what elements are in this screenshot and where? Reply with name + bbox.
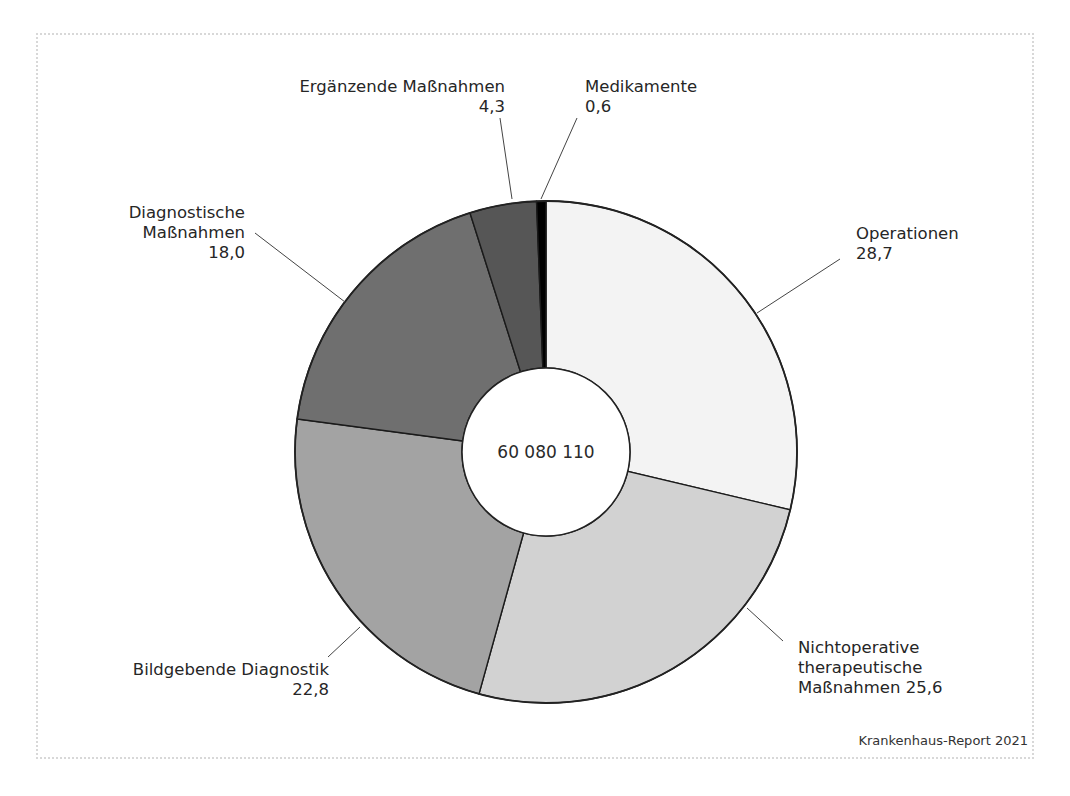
- label-diagnostische: Diagnostische Maßnahmen 18,0: [129, 203, 245, 263]
- label-operationen: Operationen 28,7: [856, 224, 959, 264]
- label-medikamente-value: 0,6: [585, 97, 697, 117]
- leader-line-diagnostische: [255, 233, 345, 302]
- label-nichtoperative-line2: therapeutische: [798, 658, 942, 678]
- label-ergaenzende-name: Ergänzende Maßnahmen: [299, 77, 505, 97]
- label-nichtoperative-line3: Maßnahmen 25,6: [798, 678, 942, 698]
- leader-line-medikamente: [541, 118, 577, 199]
- label-ergaenzende-value: 4,3: [299, 97, 505, 117]
- label-nichtoperative: Nichtoperative therapeutische Maßnahmen …: [798, 638, 942, 698]
- label-ergaenzende: Ergänzende Maßnahmen 4,3: [299, 77, 505, 117]
- label-diagnostische-line2: Maßnahmen: [129, 223, 245, 243]
- donut-center-total: 60 080 110: [466, 442, 626, 462]
- leader-line-nichtoperative: [747, 608, 783, 641]
- leader-line-bildgebende: [328, 627, 360, 657]
- label-bildgebende-value: 22,8: [133, 680, 329, 700]
- label-medikamente: Medikamente 0,6: [585, 77, 697, 117]
- label-bildgebende: Bildgebende Diagnostik 22,8: [133, 660, 329, 700]
- label-bildgebende-name: Bildgebende Diagnostik: [133, 660, 329, 680]
- label-operationen-value: 28,7: [856, 244, 959, 264]
- label-diagnostische-line1: Diagnostische: [129, 203, 245, 223]
- label-diagnostische-value: 18,0: [129, 243, 245, 263]
- leader-line-ergaenzende: [500, 118, 512, 199]
- source-note: Krankenhaus-Report 2021: [858, 733, 1028, 748]
- label-nichtoperative-line1: Nichtoperative: [798, 638, 942, 658]
- label-medikamente-name: Medikamente: [585, 77, 697, 97]
- leader-line-operationen: [757, 259, 840, 313]
- label-operationen-name: Operationen: [856, 224, 959, 244]
